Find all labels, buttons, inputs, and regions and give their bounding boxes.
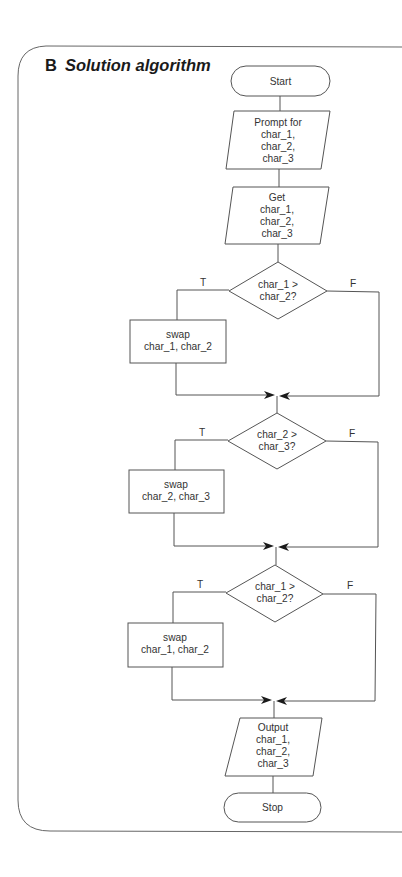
true-branch bbox=[173, 592, 226, 623]
decision-condition: char_1 > bbox=[255, 581, 295, 592]
get-line: char_2, bbox=[260, 216, 294, 227]
decision-condition: char_2? bbox=[260, 291, 297, 302]
swap-label: swap bbox=[166, 329, 190, 340]
decision-condition: char_2? bbox=[257, 593, 294, 604]
decision-3: char_1 > char_2? T F swap char_1, char_2 bbox=[128, 565, 376, 705]
output-line: Output bbox=[258, 722, 289, 733]
false-branch bbox=[286, 441, 378, 547]
get-line: char_1, bbox=[260, 204, 294, 215]
false-label: F bbox=[349, 428, 355, 439]
decision-condition: char_3? bbox=[259, 441, 296, 452]
true-label: T bbox=[199, 427, 205, 438]
prompt-line: char_1, bbox=[261, 129, 295, 140]
section-title: Solution algorithm bbox=[65, 56, 211, 74]
true-return bbox=[176, 363, 267, 395]
true-branch bbox=[177, 290, 229, 320]
decision-condition: char_2 > bbox=[257, 429, 297, 440]
decision-condition: char_1 > bbox=[258, 279, 298, 290]
swap-label: char_1, char_2 bbox=[144, 341, 212, 352]
stop-label: Stop bbox=[262, 802, 283, 813]
page-frame bbox=[18, 46, 402, 832]
start-label: Start bbox=[270, 76, 292, 87]
true-branch bbox=[175, 440, 228, 470]
section-letter: B bbox=[45, 56, 57, 74]
get-line: char_3 bbox=[261, 228, 292, 239]
true-label: T bbox=[200, 277, 206, 288]
prompt-line: char_3 bbox=[262, 153, 293, 164]
prompt-line: char_2, bbox=[261, 141, 295, 152]
output-line: char_1, bbox=[256, 734, 290, 745]
swap-label: swap bbox=[164, 479, 188, 490]
output-shape: Output char_1, char_2, char_3 bbox=[225, 718, 322, 776]
prompt-input-shape: Prompt for char_1, char_2, char_3 bbox=[226, 111, 330, 169]
swap-label: char_1, char_2 bbox=[141, 644, 209, 655]
decision-1: char_1 > char_2? T F swap char_1, char_2 bbox=[130, 262, 379, 400]
swap-label: char_2, char_3 bbox=[142, 491, 210, 502]
section-heading: BSolution algorithm bbox=[45, 56, 211, 75]
prompt-line: Prompt for bbox=[254, 117, 302, 128]
output-line: char_2, bbox=[256, 746, 290, 757]
get-input-shape: Get char_1, char_2, char_3 bbox=[225, 187, 329, 244]
false-label: F bbox=[347, 580, 353, 591]
output-line: char_3 bbox=[257, 758, 288, 769]
true-return bbox=[174, 513, 266, 546]
true-return bbox=[172, 667, 264, 700]
start-terminal: Start bbox=[231, 66, 330, 96]
true-label: T bbox=[197, 579, 203, 590]
stop-terminal: Stop bbox=[224, 793, 321, 822]
false-branch bbox=[284, 594, 376, 701]
false-label: F bbox=[350, 278, 356, 289]
swap-label: swap bbox=[163, 632, 187, 643]
decision-2: char_2 > char_3? T F swap char_2, char_3 bbox=[129, 413, 378, 551]
get-line: Get bbox=[269, 192, 286, 203]
flowchart-canvas: Start Prompt for char_1, char_2, char_3 … bbox=[0, 0, 402, 877]
false-branch bbox=[287, 291, 379, 396]
